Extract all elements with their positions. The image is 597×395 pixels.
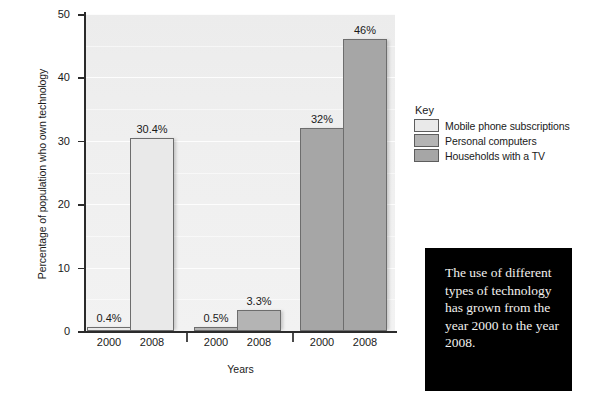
legend-title: Key [414,104,594,116]
bar [237,310,281,331]
y-axis-tick-label: 10 [14,262,70,274]
bar-value-label: 0.5% [203,312,228,324]
legend-item-label: Mobile phone subscriptions [445,120,570,132]
chart-legend: Key Mobile phone subscriptionsPersonal c… [414,104,594,164]
legend-item: Mobile phone subscriptions [414,119,594,132]
bar-value-label: 46% [354,24,376,36]
y-axis-tick-label: 20 [14,198,70,210]
y-axis-tick [78,331,85,333]
y-axis-tick [78,204,85,206]
x-axis-tick-label: 2008 [140,336,164,348]
bar-value-label: 30.4% [136,123,167,135]
y-axis-tick [78,14,85,16]
legend-swatch-icon [414,134,439,147]
x-axis-tick-label: 2008 [247,336,271,348]
y-axis-line [84,12,86,333]
x-axis-tick-label: 2008 [353,336,377,348]
bar [130,138,174,331]
x-axis-group-separator [292,333,294,342]
bar [343,39,387,331]
plot-area [86,14,395,331]
legend-item-label: Personal computers [445,135,537,147]
y-axis-tick [78,141,85,143]
x-axis-title: Years [86,363,395,375]
gridline [86,14,395,15]
bar-value-label: 0.4% [96,312,121,324]
callout-text: The use of different types of technology… [445,264,560,352]
legend-items: Mobile phone subscriptionsPersonal compu… [414,119,594,162]
y-axis-tick [78,268,85,270]
y-axis-tick [78,77,85,79]
bar-chart-figure: Percentage of population who own technol… [0,0,410,395]
callout-box: The use of different types of technology… [425,248,572,391]
x-axis-line [84,331,397,333]
x-axis-group-separator [186,333,188,342]
legend-swatch-icon [414,149,439,162]
bar-value-label: 32% [311,113,333,125]
x-axis-tick-label: 2000 [204,336,228,348]
y-axis-tick-label: 0 [14,325,70,337]
legend-swatch-icon [414,119,439,132]
y-axis-tick-label: 40 [14,71,70,83]
legend-item: Personal computers [414,134,594,147]
legend-item: Households with a TV [414,149,594,162]
bar [300,128,344,331]
x-axis-tick-label: 2000 [97,336,121,348]
y-axis-tick-label: 30 [14,135,70,147]
legend-item-label: Households with a TV [445,150,545,162]
y-axis-tick-label: 50 [14,8,70,20]
x-axis-tick-label: 2000 [310,336,334,348]
y-axis-title: Percentage of population who own technol… [36,14,48,334]
bar-value-label: 3.3% [246,295,271,307]
